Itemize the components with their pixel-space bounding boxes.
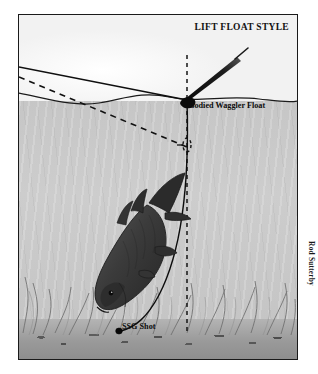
illustration-title: LIFT FLOAT STYLE — [194, 22, 289, 32]
illustration-page: LIFT FLOAT STYLE Bodied Waggler Float SS… — [0, 0, 318, 374]
waggler-float-tip — [235, 48, 248, 59]
mainline-above-water — [19, 67, 187, 100]
fish-eye-highlight — [111, 292, 113, 294]
illustration-canvas: LIFT FLOAT STYLE Bodied Waggler Float SS… — [19, 15, 297, 359]
fish-tail-fin — [149, 173, 185, 213]
fish-eye — [109, 291, 114, 296]
label-bodied-waggler-float: Bodied Waggler Float — [189, 101, 265, 110]
label-ssg-shot: SSG Shot — [122, 322, 155, 331]
fish-tail-lower — [165, 212, 191, 220]
dashed-line-diagonal — [19, 77, 187, 147]
weed-group — [23, 277, 295, 335]
fish-anal-fin — [155, 246, 177, 256]
illustration-frame: LIFT FLOAT STYLE Bodied Waggler Float SS… — [18, 14, 298, 360]
artist-credit: Rod Sutterby — [307, 241, 316, 286]
scene-vector — [19, 15, 297, 359]
